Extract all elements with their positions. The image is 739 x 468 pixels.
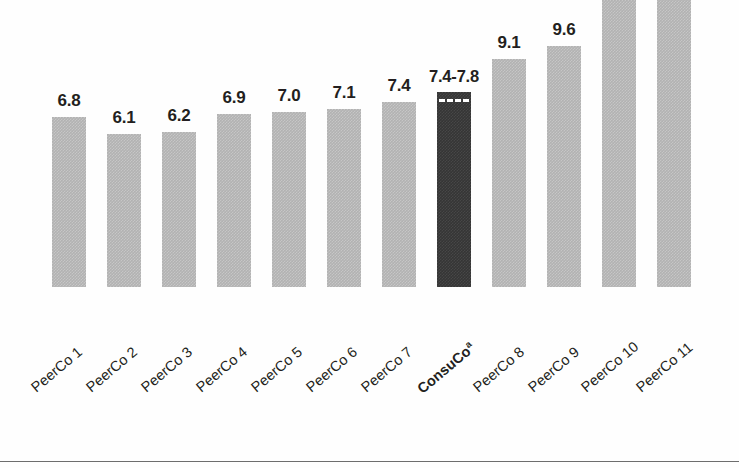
bar[interactable] — [162, 132, 196, 287]
plot-area: 6.8 6.1 6.2 6.9 7.0 7.1 7. — [0, 0, 739, 380]
bar[interactable] — [547, 46, 581, 287]
bar-value-label: 6.2 — [140, 106, 218, 126]
bar-highlight[interactable] — [437, 92, 471, 287]
bar-chart: 6.8 6.1 6.2 6.9 7.0 7.1 7. — [0, 0, 739, 468]
bar[interactable] — [107, 134, 141, 287]
bar[interactable] — [492, 59, 526, 287]
bar[interactable] — [327, 109, 361, 287]
bar[interactable] — [52, 117, 86, 287]
bottom-divider — [0, 461, 739, 462]
bar[interactable] — [217, 114, 251, 287]
bar[interactable] — [657, 0, 691, 287]
bar[interactable] — [602, 0, 636, 287]
range-dash-line — [439, 99, 469, 102]
bar[interactable] — [272, 112, 306, 287]
bar-value-label: 9.6 — [525, 20, 603, 40]
bar[interactable] — [382, 102, 416, 287]
